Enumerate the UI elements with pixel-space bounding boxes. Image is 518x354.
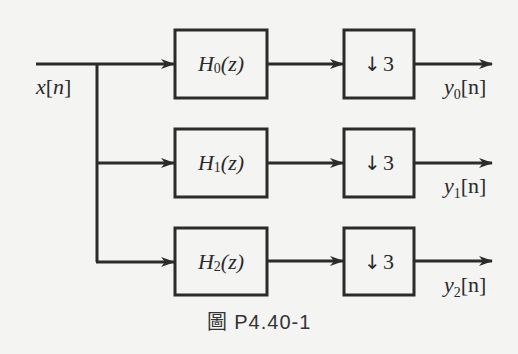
out-var: y — [444, 272, 454, 297]
out-var: y — [444, 173, 454, 198]
filter-arg: (z) — [221, 51, 244, 77]
out-index: [n] — [461, 173, 487, 198]
out-index: [n] — [461, 74, 487, 99]
out-sub: 0 — [454, 87, 461, 102]
figure-caption: 圖 P4.40-1 — [0, 306, 518, 335]
filter-sub: 0 — [214, 61, 221, 77]
filter-name: H — [198, 51, 214, 77]
y0-label: y0[n] — [444, 76, 486, 98]
input-index: n — [53, 74, 64, 99]
h2-label: H2(z) — [175, 228, 267, 295]
down0-label: ↓3 — [344, 30, 414, 98]
input-label: x[n] — [36, 76, 71, 98]
filter-name: H — [198, 249, 214, 275]
down1-label: ↓3 — [344, 129, 414, 197]
out-sub: 2 — [454, 285, 461, 300]
down-factor: 3 — [383, 249, 394, 275]
y1-label: y1[n] — [444, 175, 486, 197]
filter-sub: 1 — [214, 160, 221, 176]
h1-label: H1(z) — [175, 129, 267, 197]
down-arrow-icon: ↓ — [364, 250, 381, 274]
y2-label: y2[n] — [444, 274, 486, 296]
filter-arg: (z) — [221, 150, 244, 176]
out-var: y — [444, 74, 454, 99]
filter-arg: (z) — [221, 249, 244, 275]
out-sub: 1 — [454, 186, 461, 201]
filter-sub: 2 — [214, 259, 221, 275]
filter-name: H — [198, 150, 214, 176]
down-arrow-icon: ↓ — [364, 52, 381, 76]
block-diagram: x[n] H0(z) H1(z) H2(z) ↓3 ↓3 ↓3 y0[n] y1… — [0, 0, 518, 354]
down-factor: 3 — [383, 51, 394, 77]
down2-label: ↓3 — [344, 228, 414, 295]
input-var: x — [36, 74, 46, 99]
down-arrow-icon: ↓ — [364, 151, 381, 175]
down-factor: 3 — [383, 150, 394, 176]
out-index: [n] — [461, 272, 487, 297]
h0-label: H0(z) — [175, 30, 267, 98]
